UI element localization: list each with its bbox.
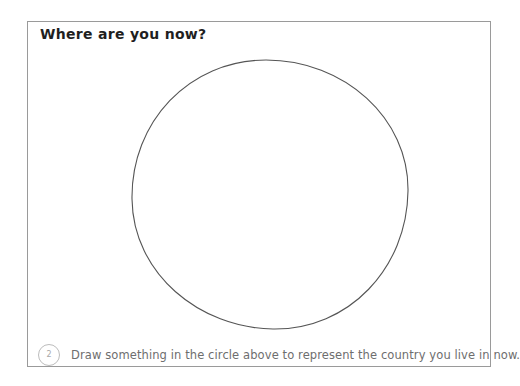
instruction-text: Draw something in the circle above to re… <box>71 348 481 362</box>
page-title: Where are you now? <box>40 26 207 42</box>
step-number-badge: 2 <box>38 344 60 366</box>
step-number: 2 <box>46 351 51 359</box>
worksheet-frame <box>27 21 491 367</box>
